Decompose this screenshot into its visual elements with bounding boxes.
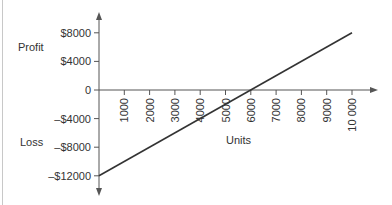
x-tick-label: 10 000: [346, 98, 358, 132]
x-tick-label: 2000: [144, 98, 156, 122]
x-tick-label: 8000: [295, 98, 307, 122]
x-tick-label: 7000: [270, 98, 282, 122]
y-axis-label-profit: Profit: [18, 41, 44, 53]
y-tick-label: –$8000: [54, 141, 91, 153]
y-axis-arrow-up: [96, 12, 102, 20]
y-tick-label: –$4000: [54, 113, 91, 125]
profit-loss-line: [99, 33, 352, 176]
y-axis-arrow-down: [96, 188, 102, 196]
x-axis-arrow: [370, 87, 378, 93]
x-tick-label: 6000: [245, 98, 257, 122]
axes: [96, 12, 378, 196]
y-tick-label: $8000: [60, 27, 91, 39]
x-axis-label: Units: [226, 134, 252, 146]
y-tick-label: $4000: [60, 55, 91, 67]
break-even-chart: $8000$40000–$4000–$8000–$120001000200030…: [0, 0, 392, 205]
y-axis-label-loss: Loss: [20, 136, 44, 148]
y-tick-label: 0: [85, 84, 91, 96]
ticks: $8000$40000–$4000–$8000–$120001000200030…: [48, 27, 358, 182]
x-tick-label: 1000: [118, 98, 130, 122]
series: [99, 33, 352, 176]
x-tick-label: 9000: [321, 98, 333, 122]
y-tick-label: –$12000: [48, 170, 91, 182]
x-tick-label: 3000: [169, 98, 181, 122]
